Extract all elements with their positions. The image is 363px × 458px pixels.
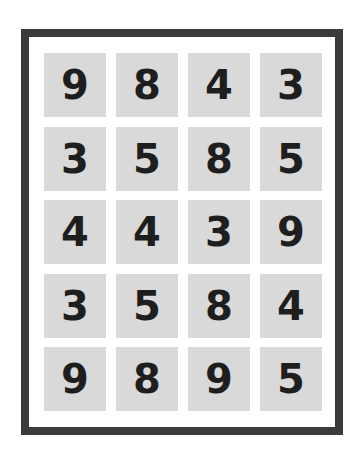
tile-number: 9 <box>61 359 89 399</box>
tile-number: 3 <box>205 212 233 252</box>
tile-r4-c3[interactable]: 8 <box>188 274 250 338</box>
tile-number: 5 <box>133 139 161 179</box>
tile-r1-c2[interactable]: 8 <box>116 53 178 117</box>
tile-r3-c1[interactable]: 4 <box>44 200 106 264</box>
tile-number: 4 <box>277 286 305 326</box>
tile-number: 3 <box>61 139 89 179</box>
tile-grid: 9 8 4 3 3 5 8 5 4 4 3 9 3 5 8 4 9 8 9 5 <box>44 53 322 411</box>
tile-r1-c4[interactable]: 3 <box>260 53 322 117</box>
tile-number: 4 <box>133 212 161 252</box>
tile-r4-c4[interactable]: 4 <box>260 274 322 338</box>
tile-r3-c4[interactable]: 9 <box>260 200 322 264</box>
tile-number: 9 <box>61 65 89 105</box>
tile-r5-c3[interactable]: 9 <box>188 347 250 411</box>
tile-number: 8 <box>205 286 233 326</box>
tile-number: 9 <box>205 359 233 399</box>
tile-r4-c2[interactable]: 5 <box>116 274 178 338</box>
tile-r2-c4[interactable]: 5 <box>260 127 322 191</box>
tile-number: 4 <box>205 65 233 105</box>
tile-number: 8 <box>205 139 233 179</box>
tile-number: 9 <box>277 212 305 252</box>
tile-r1-c3[interactable]: 4 <box>188 53 250 117</box>
tile-r5-c2[interactable]: 8 <box>116 347 178 411</box>
tile-r2-c3[interactable]: 8 <box>188 127 250 191</box>
tile-number: 5 <box>277 139 305 179</box>
tile-r5-c1[interactable]: 9 <box>44 347 106 411</box>
tile-r2-c2[interactable]: 5 <box>116 127 178 191</box>
tile-number: 3 <box>61 286 89 326</box>
tile-number: 3 <box>277 65 305 105</box>
tile-number: 8 <box>133 65 161 105</box>
tile-r2-c1[interactable]: 3 <box>44 127 106 191</box>
tile-number: 8 <box>133 359 161 399</box>
tile-number: 5 <box>277 359 305 399</box>
board-frame: 9 8 4 3 3 5 8 5 4 4 3 9 3 5 8 4 9 8 9 5 <box>21 29 343 435</box>
tile-r1-c1[interactable]: 9 <box>44 53 106 117</box>
tile-number: 5 <box>133 286 161 326</box>
tile-r4-c1[interactable]: 3 <box>44 274 106 338</box>
tile-r3-c3[interactable]: 3 <box>188 200 250 264</box>
tile-r5-c4[interactable]: 5 <box>260 347 322 411</box>
tile-r3-c2[interactable]: 4 <box>116 200 178 264</box>
tile-number: 4 <box>61 212 89 252</box>
